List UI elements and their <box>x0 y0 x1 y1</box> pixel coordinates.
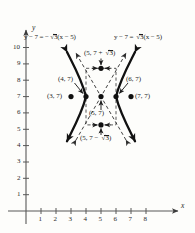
y-axis-label: y <box>32 24 35 32</box>
right-eqn-lhs: y − 7 = <box>114 33 135 41</box>
y-tick-label-5: 5 <box>17 126 21 133</box>
right-eqn-radical-group: √3 <box>135 34 143 41</box>
label-right-vertex: (6, 7) <box>126 76 141 83</box>
left-eqn-lhs: y − 7 = − <box>24 33 49 41</box>
point-dot-right-focus <box>128 94 133 99</box>
label-box-top-point: (5, 7 + √3) <box>84 50 115 57</box>
x-tick-label-2: 2 <box>54 216 58 223</box>
box-top-suffix: ) <box>113 49 115 57</box>
label-box-bottom-point: (5, 7 − √3) <box>80 135 111 142</box>
hyperbola-figure: y x 1 2 3 4 5 6 7 8 1 2 3 4 5 6 7 8 9 10… <box>0 0 195 233</box>
y-tick-label-9: 9 <box>17 60 21 67</box>
right-eqn-rhs: (x − 5) <box>144 33 162 41</box>
left-eqn-radical-group: √3 <box>49 34 57 41</box>
y-tick-label-2: 2 <box>17 175 21 182</box>
box-bottom-radical-group: √3 <box>100 135 109 142</box>
right-asymptote-equation: y − 7 = √3(x − 5) <box>114 34 162 41</box>
y-tick-label-6: 6 <box>17 109 21 116</box>
point-dot-box-top <box>98 66 103 71</box>
point-dot-left-vertex <box>83 94 88 99</box>
label-left-focus: (3, 7) <box>47 93 62 100</box>
x-tick-label-7: 7 <box>129 216 133 223</box>
box-bottom-prefix: (5, 7 − <box>80 134 100 142</box>
point-dot-box-bottom <box>98 122 103 127</box>
y-tick-label-1: 1 <box>17 191 21 198</box>
box-bottom-suffix: ) <box>109 134 111 142</box>
label-center-point: (5, 7) <box>89 110 104 117</box>
x-tick-label-5: 5 <box>99 216 103 223</box>
x-tick-label-1: 1 <box>39 216 43 223</box>
x-tick-label-3: 3 <box>69 216 73 223</box>
left-eqn-rhs: (x − 5) <box>57 33 75 41</box>
point-dot-right-vertex <box>113 94 118 99</box>
y-tick-label-3: 3 <box>17 158 21 165</box>
axis-lines <box>8 30 178 224</box>
x-tick-label-4: 4 <box>84 216 88 223</box>
y-tick-label-8: 8 <box>17 77 21 84</box>
box-top-radical-group: √3 <box>104 50 113 57</box>
x-tick-label-8: 8 <box>144 216 148 223</box>
x-tick-label-6: 6 <box>114 216 118 223</box>
point-dot-center <box>98 94 103 99</box>
y-tick-label-4: 4 <box>17 142 21 149</box>
box-top-prefix: (5, 7 + <box>84 49 104 57</box>
y-tick-label-7: 7 <box>17 93 21 100</box>
left-asymptote-equation: y − 7 = −√3(x − 5) <box>24 34 76 41</box>
label-left-vertex: (4, 7) <box>58 76 73 83</box>
label-right-focus: (7, 7) <box>135 93 150 100</box>
x-axis-label: x <box>181 202 184 210</box>
point-dot-left-focus <box>68 94 73 99</box>
y-tick-label-10: 10 <box>13 44 20 51</box>
